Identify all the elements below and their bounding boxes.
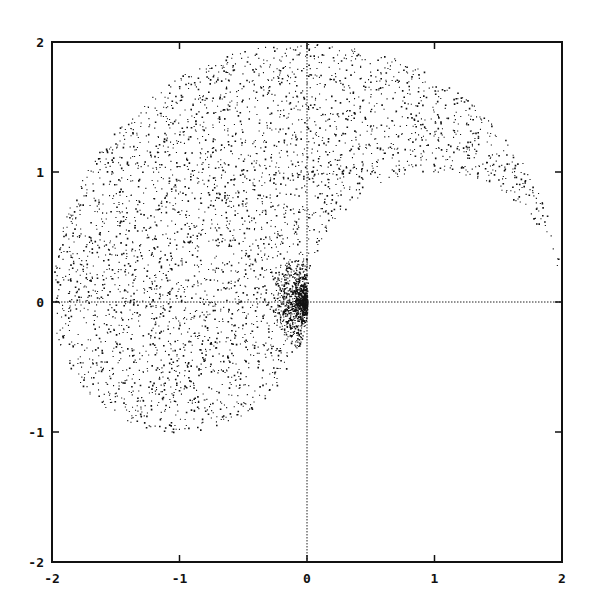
scatter-plot: -2-1012 210-1-2	[0, 0, 590, 610]
scatter-points	[54, 44, 562, 433]
y-tick-label: -1	[28, 425, 44, 440]
x-axis-tick-labels: -2-1012	[44, 571, 566, 586]
x-tick-label: 1	[431, 571, 439, 586]
y-axis-tick-labels: 210-1-2	[28, 35, 44, 570]
x-tick-label: -1	[172, 571, 188, 586]
y-tick-label: 0	[36, 295, 44, 310]
y-tick-label: 2	[36, 35, 44, 50]
x-tick-label: 0	[303, 571, 311, 586]
y-tick-label: -2	[28, 555, 44, 570]
x-tick-label: 2	[558, 571, 566, 586]
data-points	[54, 44, 562, 433]
x-tick-label: -2	[44, 571, 60, 586]
y-tick-label: 1	[36, 165, 44, 180]
